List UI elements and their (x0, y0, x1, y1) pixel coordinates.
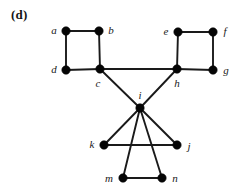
graph-vertex-k (100, 141, 108, 149)
graph-edge-h-g (177, 69, 213, 70)
vertex-label-e: e (164, 26, 169, 37)
graph-edge-e-h (177, 32, 178, 69)
vertex-label-d: d (51, 64, 57, 75)
graph-figure: (d) abcdefghijkmn (0, 0, 244, 189)
graph-vertex-a (62, 27, 70, 35)
graph-vertex-j (173, 141, 181, 149)
vertex-label-m: m (105, 173, 113, 184)
vertex-label-b: b (108, 25, 114, 36)
vertex-label-f: f (223, 26, 226, 37)
graph-canvas (0, 0, 244, 189)
vertex-label-i: i (138, 90, 141, 101)
graph-vertex-i (136, 104, 144, 112)
graph-vertex-f (209, 28, 217, 36)
vertex-label-n: n (172, 173, 178, 184)
graph-edge-i-m (123, 108, 140, 178)
graph-vertex-d (62, 66, 70, 74)
graph-vertex-m (119, 174, 127, 182)
graph-vertex-g (209, 66, 217, 74)
graph-edge-c-i (100, 69, 140, 108)
graph-vertex-c (96, 65, 104, 73)
vertex-label-c: c (96, 78, 101, 89)
graph-edge-b-c (99, 31, 100, 69)
vertex-label-a: a (51, 25, 57, 36)
graph-vertex-e (174, 28, 182, 36)
graph-vertex-b (95, 27, 103, 35)
vertex-layer (62, 27, 217, 182)
vertex-label-j: j (187, 141, 190, 152)
vertex-label-h: h (174, 78, 180, 89)
graph-vertex-h (173, 65, 181, 73)
graph-edge-d-c (66, 69, 100, 70)
graph-edge-h-i (140, 69, 177, 108)
vertex-label-k: k (90, 139, 95, 150)
vertex-label-g: g (223, 65, 229, 76)
graph-vertex-n (158, 174, 166, 182)
